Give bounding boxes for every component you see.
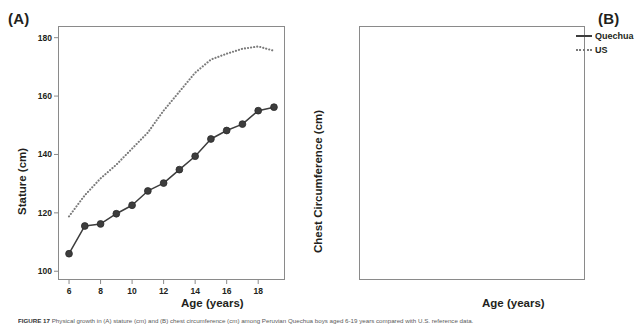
svg-text:16: 16 (222, 286, 232, 296)
svg-text:10: 10 (127, 286, 137, 296)
legend-label-quechua: Quechua (595, 31, 634, 41)
svg-text:14: 14 (190, 286, 200, 296)
svg-text:100: 100 (38, 266, 52, 276)
svg-text:140: 140 (38, 149, 52, 159)
legend-line-dotted-icon (576, 49, 592, 51)
figure-caption: FIGURE 17 Physical growth in (A) stature… (18, 317, 628, 328)
chart-legend: Quechua US (576, 30, 640, 58)
svg-text:8: 8 (98, 286, 103, 296)
legend-label-us: US (595, 45, 608, 55)
legend-item-quechua: Quechua (576, 30, 640, 42)
legend-line-solid-icon (576, 35, 592, 37)
svg-text:160: 160 (38, 91, 52, 101)
figure-caption-body: Physical growth in (A) stature (cm) and … (52, 317, 474, 324)
svg-text:18: 18 (253, 286, 263, 296)
figure-container: (A) Stature (cm) Age (years) 10012014016… (0, 0, 642, 329)
svg-text:120: 120 (38, 208, 52, 218)
svg-text:6: 6 (67, 286, 72, 296)
svg-text:12: 12 (159, 286, 169, 296)
panel-a-chart-svg: 100120140160180681012141618 (0, 0, 321, 329)
legend-item-us: US (576, 44, 640, 56)
figure-caption-number: FIGURE 17 (18, 317, 50, 324)
svg-text:180: 180 (38, 33, 52, 43)
panel-a-stature: (A) Stature (cm) Age (years) 10012014016… (0, 0, 321, 329)
